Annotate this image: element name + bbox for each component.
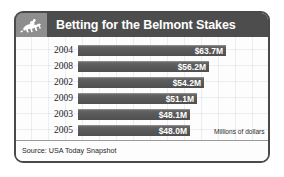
bar-2004: $63.7M [78, 45, 226, 56]
bar-category-label: 2009 [16, 93, 78, 104]
usa-today-snapshot-card: Betting for the Belmont Stakes 2004 $63.… [14, 11, 270, 163]
bar-2003: $48.1M [78, 109, 190, 120]
bar-row: 2002 $54.2M [16, 74, 268, 90]
bar-2009: $51.1M [78, 93, 197, 104]
bar-value-label: $56.2M [178, 62, 209, 72]
bar-2008: $56.2M [78, 61, 209, 72]
bar-value-label: $54.2M [173, 78, 204, 88]
source-attribution: Source: USA Today Snapshot [16, 141, 268, 155]
bar-value-label: $63.7M [195, 46, 226, 56]
bar-row: 2003 $48.1M [16, 106, 268, 122]
bar-category-label: 2004 [16, 45, 78, 56]
bar-2005: $48.0M [78, 125, 190, 136]
bar-row: 2009 $51.1M [16, 90, 268, 106]
bar-row: 2004 $63.7M [16, 42, 268, 58]
axis-unit-annotation: Millions of dollars [214, 128, 265, 135]
page-title: Betting for the Belmont Stakes [47, 13, 236, 37]
chart-header: Betting for the Belmont Stakes [16, 13, 268, 37]
bar-category-label: 2008 [16, 61, 78, 72]
bar-2002: $54.2M [78, 77, 204, 88]
bar-row: 2008 $56.2M [16, 58, 268, 74]
bar-category-label: 2003 [16, 109, 78, 120]
bar-category-label: 2005 [16, 125, 78, 136]
bar-value-label: $48.0M [159, 126, 190, 136]
bar-category-label: 2002 [16, 77, 78, 88]
bar-value-label: $48.1M [159, 110, 190, 120]
bar-value-label: $51.1M [166, 94, 197, 104]
chart-footer: Source: USA Today Snapshot [16, 140, 268, 161]
racehorse-jockey-icon [16, 13, 47, 37]
bar-chart-plot: 2004 $63.7M 2008 $56.2M 2002 $54.2M 2009… [16, 42, 268, 146]
